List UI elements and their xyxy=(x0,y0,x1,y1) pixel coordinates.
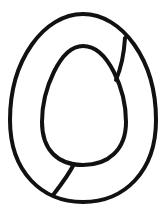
egg-ring-drawing xyxy=(0,0,165,212)
upper-connector-line xyxy=(116,38,125,80)
egg-ring-figure: Egg-shaped ring line drawing xyxy=(0,0,165,212)
outer-egg-outline xyxy=(10,14,156,202)
lower-connector-line xyxy=(53,164,74,195)
inner-egg-outline xyxy=(42,46,126,165)
